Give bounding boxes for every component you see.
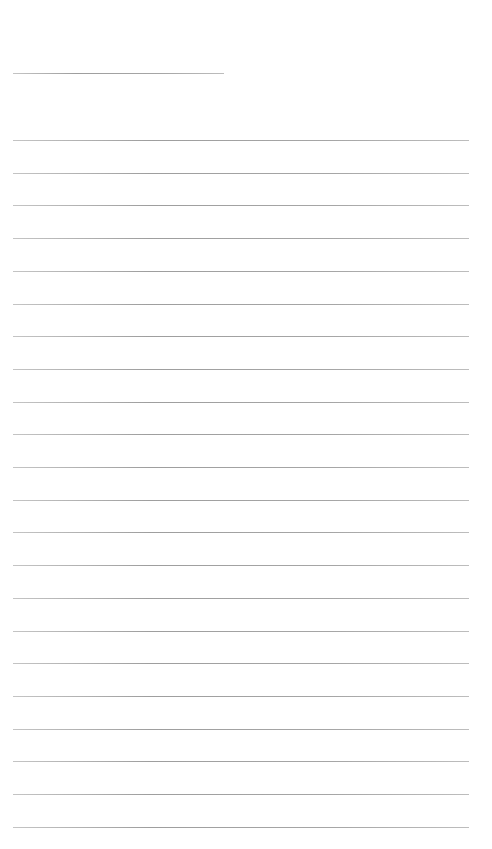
ruled-line xyxy=(13,369,469,370)
lined-paper-page xyxy=(0,0,492,849)
ruled-line xyxy=(13,402,469,403)
ruled-line xyxy=(13,794,469,795)
ruled-line xyxy=(13,140,469,141)
ruled-line xyxy=(13,434,469,435)
ruled-line xyxy=(13,304,469,305)
ruled-line xyxy=(13,500,469,501)
ruled-line xyxy=(13,238,469,239)
ruled-line xyxy=(13,631,469,632)
ruled-line xyxy=(13,532,469,533)
ruled-line xyxy=(13,729,469,730)
ruled-line xyxy=(13,271,469,272)
ruled-line xyxy=(13,663,469,664)
ruled-line xyxy=(13,336,469,337)
ruled-line xyxy=(13,205,469,206)
ruled-line xyxy=(13,467,469,468)
title-line xyxy=(13,73,224,74)
ruled-line xyxy=(13,565,469,566)
ruled-line xyxy=(13,696,469,697)
ruled-line xyxy=(13,761,469,762)
ruled-line xyxy=(13,598,469,599)
ruled-line xyxy=(13,173,469,174)
ruled-line xyxy=(13,827,469,828)
